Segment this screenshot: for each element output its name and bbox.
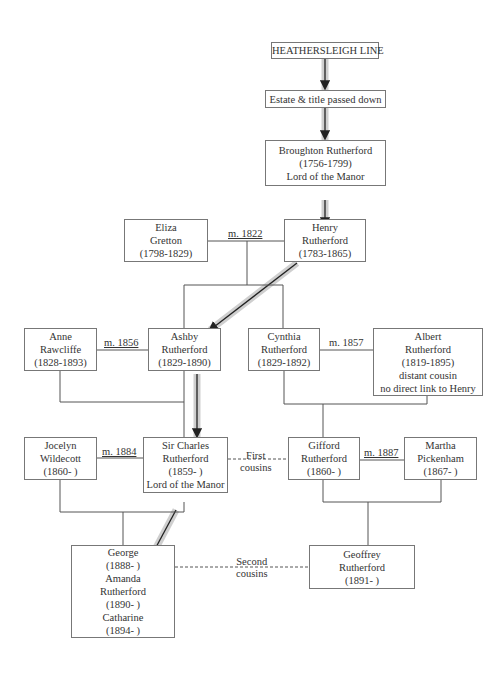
node-text: Lord of the Manor	[266, 170, 385, 183]
second-cousins-label: Second cousins	[236, 556, 268, 580]
node-text: (1894- )	[72, 624, 174, 637]
node-text: Broughton Rutherford	[266, 144, 385, 157]
node-gifford: Gifford Rutherford (1860- )	[288, 437, 360, 480]
node-text: HEATHERSLEIGH LINE	[272, 44, 378, 57]
node-text: Rutherford	[149, 343, 220, 356]
node-text: Sir Charles	[144, 439, 227, 452]
node-ashby: Ashby Rutherford (1829-1890)	[148, 328, 221, 371]
node-text: Henry	[285, 221, 365, 234]
node-broughton: Broughton Rutherford (1756-1799) Lord of…	[265, 140, 386, 186]
marriage-label-1857: m. 1857	[329, 337, 363, 349]
node-text: Catharine	[72, 611, 174, 624]
first-cousins-label: First cousins	[240, 450, 272, 474]
node-text: Rutherford	[374, 343, 482, 356]
node-text: Rutherford	[249, 343, 319, 356]
label-text: cousins	[236, 568, 268, 580]
node-heathersleigh-line: HEATHERSLEIGH LINE	[271, 42, 379, 59]
marriage-label-1884: m. 1884	[102, 446, 136, 458]
node-text: distant cousin	[374, 369, 482, 382]
node-text: Rutherford	[289, 452, 359, 465]
node-text: (1756-1799)	[266, 157, 385, 170]
node-text: (1859- )	[144, 465, 227, 478]
node-cynthia: Cynthia Rutherford (1829-1892)	[248, 328, 320, 371]
node-text: (1798-1829)	[125, 247, 207, 260]
node-henry: Henry Rutherford (1783-1865)	[284, 219, 366, 262]
node-text: (1891- )	[310, 574, 414, 587]
node-text: Anne	[25, 330, 96, 343]
node-text: Gretton	[125, 234, 207, 247]
node-text: Geoffrey	[310, 548, 414, 561]
node-text: Pickenham	[405, 452, 476, 465]
node-text: Gifford	[289, 439, 359, 452]
node-estate-passed: Estate & title passed down	[265, 90, 386, 108]
node-text: Eliza	[125, 221, 207, 234]
node-text: Rutherford	[310, 561, 414, 574]
node-text: (1829-1890)	[149, 356, 220, 369]
node-text: no direct link to Henry	[374, 382, 482, 395]
node-text: (1829-1892)	[249, 356, 319, 369]
node-text: Jocelyn	[25, 439, 96, 452]
node-text: Wildecott	[25, 452, 96, 465]
node-text: Rawcliffe	[25, 343, 96, 356]
marriage-label-1887: m. 1887	[364, 447, 398, 459]
node-martha: Martha Pickenham (1867- )	[404, 437, 477, 480]
node-text: (1890- )	[72, 598, 174, 611]
node-text: Rutherford	[72, 585, 174, 598]
node-text: Lord of the Manor	[144, 478, 227, 491]
marriage-label-1856: m. 1856	[104, 337, 138, 349]
node-text: Albert	[374, 330, 482, 343]
node-text: Martha	[405, 439, 476, 452]
node-eliza: Eliza Gretton (1798-1829)	[124, 219, 208, 262]
node-albert: Albert Rutherford (1819-1895) distant co…	[373, 328, 483, 396]
node-text: (1860- )	[25, 465, 96, 478]
node-jocelyn: Jocelyn Wildecott (1860- )	[24, 437, 97, 480]
node-text: Amanda	[72, 572, 174, 585]
node-text: (1867- )	[405, 465, 476, 478]
node-text: Ashby	[149, 330, 220, 343]
label-text: Second	[236, 556, 268, 568]
node-text: Cynthia	[249, 330, 319, 343]
node-geoffrey: Geoffrey Rutherford (1891- )	[309, 545, 415, 589]
node-text: (1819-1895)	[374, 356, 482, 369]
marriage-label-1822: m. 1822	[228, 228, 262, 240]
node-text: (1888- )	[72, 559, 174, 572]
node-sir-charles: Sir Charles Rutherford (1859- ) Lord of …	[143, 437, 228, 493]
node-children-charles: George (1888- ) Amanda Rutherford (1890-…	[71, 545, 175, 638]
label-text: First	[240, 450, 272, 462]
node-anne: Anne Rawcliffe (1828-1893)	[24, 328, 97, 371]
node-text: George	[72, 546, 174, 559]
node-text: Estate & title passed down	[266, 93, 385, 106]
node-text: (1828-1893)	[25, 356, 96, 369]
label-text: cousins	[240, 462, 272, 474]
node-text: (1783-1865)	[285, 247, 365, 260]
node-text: Rutherford	[144, 452, 227, 465]
node-text: (1860- )	[289, 465, 359, 478]
node-text: Rutherford	[285, 234, 365, 247]
